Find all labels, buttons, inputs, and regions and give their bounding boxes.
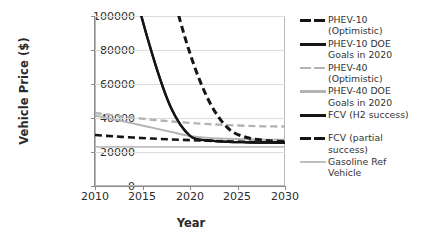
legend-marker-dashed-black-icon [300,132,326,144]
legend-marker-solid-black-icon [300,38,326,50]
x-axis-tick [190,186,191,190]
legend-marker-solid-black-icon [300,109,326,121]
chart-legend: PHEV-10 (Optimistic) PHEV-10 DOE Goals i… [300,14,427,180]
x-axis-title: Year [95,216,287,230]
x-axis-tick [285,186,286,190]
x-axis-tick [95,186,96,190]
legend-label: PHEV-10 DOE Goals in 2020 [327,38,392,61]
series-line [95,0,285,141]
legend-item-phev10-optimistic[interactable]: PHEV-10 (Optimistic) [300,14,427,37]
legend-marker-solid-gray-light-icon [300,156,326,168]
series-lines [95,16,285,186]
legend-label: Gasoline Ref Vehicle [327,156,386,179]
legend-label: FCV (H2 success) [327,109,409,120]
legend-item-phev10-doe-goals[interactable]: PHEV-10 DOE Goals in 2020 [300,38,427,61]
chart-figure: Vehicle Price ($) Year 100000 80000 6000… [0,0,427,240]
series-line [95,113,285,127]
x-axis-tick [143,186,144,190]
legend-item-fcv-h2-success[interactable]: FCV (H2 success) [300,109,427,122]
legend-item-phev40-doe-goals[interactable]: PHEV-40 DOE Goals in 2020 [300,85,427,108]
y-axis-title: Vehicle Price ($) [17,21,31,161]
legend-label: PHEV-40 (Optimistic) [327,62,383,85]
legend-marker-solid-gray-icon [300,85,326,97]
legend-item-fcv-partial-success[interactable]: FCV (partial success) [300,132,427,155]
plot-area [95,16,285,186]
legend-marker-dashed-gray-icon [300,62,326,74]
legend-item-gasoline-ref-vehicle[interactable]: Gasoline Ref Vehicle [300,156,427,179]
x-tick-label: 2030 [255,190,315,203]
legend-item-phev40-optimistic[interactable]: PHEV-40 (Optimistic) [300,62,427,85]
x-axis-tick [238,186,239,190]
legend-label: FCV (partial success) [327,132,383,155]
legend-label: PHEV-40 DOE Goals in 2020 [327,85,392,108]
legend-label: PHEV-10 (Optimistic) [327,14,383,37]
legend-spacer [300,123,427,132]
legend-marker-dashed-black-icon [300,14,326,26]
